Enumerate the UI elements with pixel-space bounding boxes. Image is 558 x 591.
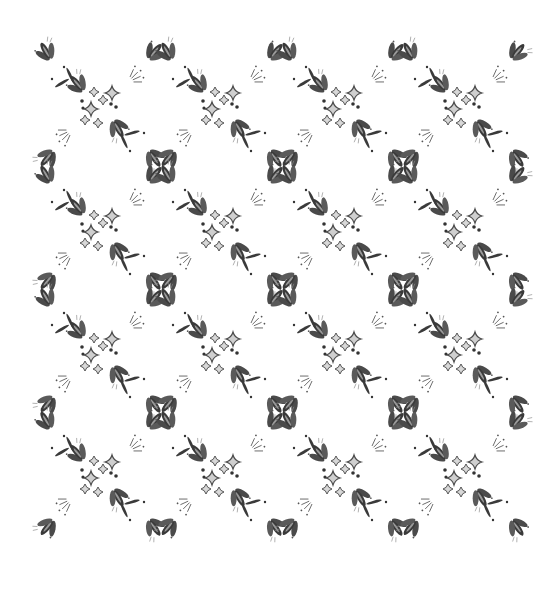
lattice-motif (393, 281, 535, 421)
lattice-pattern (0, 0, 558, 591)
lattice-motif (272, 35, 414, 175)
lattice-motif (393, 404, 535, 544)
lattice-motif (30, 281, 172, 421)
lattice-motif (393, 35, 535, 175)
lattice-motif (272, 404, 414, 544)
motif-grid (30, 35, 535, 544)
lattice-motif (151, 281, 293, 421)
lattice-motif (151, 404, 293, 544)
lattice-motif (151, 158, 293, 298)
lattice-motif (30, 158, 172, 298)
lattice-motif (30, 35, 172, 175)
lattice-motif (393, 158, 535, 298)
lattice-motif (151, 35, 293, 175)
lattice-motif (272, 158, 414, 298)
lattice-motif (30, 404, 172, 544)
lattice-motif (272, 281, 414, 421)
